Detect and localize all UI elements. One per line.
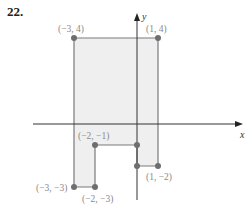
point-neg2-neg3 (92, 184, 98, 190)
label-neg3-4: (−3, 4) (58, 24, 84, 35)
point-neg3-4 (71, 35, 77, 41)
label-neg2-neg3: (−2, −3) (82, 194, 113, 205)
point-neg3-neg3 (71, 184, 77, 190)
x-axis-label: x (239, 129, 245, 140)
label-1-4: (1, 4) (146, 24, 167, 35)
y-axis-label: y (141, 11, 147, 22)
point-1-neg2 (155, 163, 161, 169)
label-neg3-neg3: (−3, −3) (36, 183, 67, 194)
y-axis-arrow-icon (134, 13, 140, 21)
point-1-4 (155, 35, 161, 41)
shaded-region (74, 38, 158, 187)
label-1-neg2: (1, −2) (146, 172, 172, 183)
point-0-neg1 (134, 142, 140, 148)
coordinate-plane: x y (−3, 4) (1, 4) (−2, −1) (−3, −3) (−2… (0, 0, 251, 219)
point-0-neg2 (134, 163, 140, 169)
x-axis-arrow-icon (235, 121, 243, 127)
point-neg2-neg1 (92, 142, 98, 148)
label-neg2-neg1: (−2, −1) (78, 131, 109, 142)
